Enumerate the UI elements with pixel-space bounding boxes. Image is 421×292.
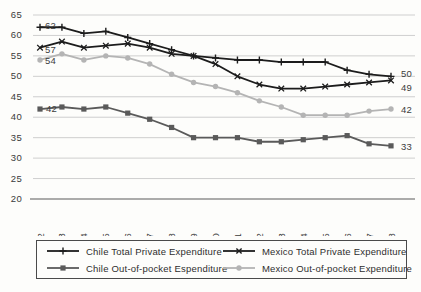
x-axis-tick-label: 2017 xyxy=(365,233,375,236)
square-marker-icon xyxy=(60,265,65,270)
x-axis-tick-label: 2016 xyxy=(343,233,353,236)
x-axis-tick-label: 2010 xyxy=(211,233,221,236)
x-axis-tick-label: 2012 xyxy=(255,233,265,236)
plus-marker-icon xyxy=(37,24,44,31)
x-axis-tick-label: 2004 xyxy=(79,233,89,236)
y-axis-tick-label: 20 xyxy=(11,193,22,204)
legend-label: Chile Total Private Expenditure xyxy=(86,246,222,257)
y-axis-tick-label: 50 xyxy=(11,70,22,81)
legend-item-mexico-oop: Mexico Out-of-pocket Expenditure xyxy=(221,261,412,276)
x-axis-tick-label: 2006 xyxy=(123,233,133,236)
legend-label: Mexico Total Private Expenditure xyxy=(262,246,407,257)
legend-label: Chile Out-of-pocket Espenditure xyxy=(86,263,227,274)
square-marker-icon xyxy=(279,139,284,144)
circle-marker-icon xyxy=(191,80,196,85)
legend-item-chile-total: Chile Total Private Expenditure xyxy=(45,244,221,259)
x-axis-tick-label: 2003 xyxy=(57,233,67,236)
x-axis-tick-label: 2008 xyxy=(167,233,177,236)
plus-marker-icon xyxy=(322,59,329,66)
circle-marker-icon xyxy=(322,112,327,117)
square-marker-icon xyxy=(125,111,130,116)
square-marker-icon xyxy=(37,106,42,111)
x-axis-tick-label: 2011 xyxy=(233,233,243,236)
square-marker-icon xyxy=(213,135,218,140)
legend-label: Mexico Out-of-pocket Expenditure xyxy=(262,263,412,274)
series-line xyxy=(40,27,391,76)
circle-marker-icon xyxy=(388,106,393,111)
y-axis-tick-label: 30 xyxy=(11,152,22,163)
y-axis-tick-label: 25 xyxy=(11,173,22,184)
circle-marker-icon xyxy=(213,84,218,89)
square-line-marker-icon xyxy=(45,263,81,273)
legend-item-chile-oop: Chile Out-of-pocket Espenditure xyxy=(45,261,221,276)
plus-marker-icon xyxy=(102,28,109,35)
y-axis-tick-label: 55 xyxy=(11,50,22,61)
x-axis-tick-label: 2018 xyxy=(387,233,397,236)
circle-marker-icon xyxy=(235,90,240,95)
x-axis-tick-label: 2015 xyxy=(321,233,331,236)
series-line xyxy=(40,42,391,89)
x-axis-tick-label: 2009 xyxy=(189,233,199,236)
plus-marker-icon xyxy=(234,56,241,63)
square-marker-icon xyxy=(345,133,350,138)
square-marker-icon xyxy=(191,135,196,140)
y-axis-tick-label: 35 xyxy=(11,132,22,143)
line-chart: 2025303540455055606520022003200420052006… xyxy=(0,0,421,292)
y-axis-tick-label: 60 xyxy=(11,29,22,40)
square-marker-icon xyxy=(388,143,393,148)
square-marker-icon xyxy=(147,117,152,122)
series-start-data-label: 42 xyxy=(46,103,57,114)
circle-marker-icon xyxy=(169,72,174,77)
x-axis-tick-label: 2005 xyxy=(101,233,111,236)
circle-marker-icon xyxy=(301,112,306,117)
series-end-data-label: 49 xyxy=(401,82,412,93)
square-marker-icon xyxy=(301,137,306,142)
plus-line-marker-icon xyxy=(45,246,81,256)
square-marker-icon xyxy=(257,139,262,144)
square-marker-icon xyxy=(103,104,108,109)
circle-marker-icon xyxy=(344,112,349,117)
plus-marker-icon xyxy=(344,67,351,74)
circle-marker-icon xyxy=(103,53,108,58)
x-line-marker-icon xyxy=(221,246,257,256)
plus-marker-icon xyxy=(58,24,65,31)
chart-legend: Chile Total Private Expenditure Mexico T… xyxy=(36,240,407,279)
circle-marker-icon xyxy=(366,108,371,113)
series-start-data-label: 62 xyxy=(45,20,56,31)
circle-marker-icon xyxy=(81,57,86,62)
square-marker-icon xyxy=(59,104,64,109)
plus-marker-icon xyxy=(256,56,263,63)
circle-marker-icon xyxy=(279,104,284,109)
y-axis-tick-label: 65 xyxy=(11,9,22,20)
series-end-data-label: 42 xyxy=(401,104,412,115)
series-start-data-label: 54 xyxy=(45,55,56,66)
series-end-data-label: 50 xyxy=(401,68,412,79)
square-marker-icon xyxy=(81,106,86,111)
circle-marker-icon xyxy=(59,51,64,56)
plus-marker-icon xyxy=(60,248,67,255)
circle-marker-icon xyxy=(125,55,130,60)
square-marker-icon xyxy=(366,141,371,146)
plus-marker-icon xyxy=(300,59,307,66)
series-start-data-label: 57 xyxy=(45,44,56,55)
plus-marker-icon xyxy=(278,59,285,66)
x-axis-tick-label: 2013 xyxy=(277,233,287,236)
y-axis-tick-label: 40 xyxy=(11,111,22,122)
square-marker-icon xyxy=(169,125,174,130)
y-axis-tick-label: 45 xyxy=(11,91,22,102)
x-axis-tick-label: 2002 xyxy=(36,233,46,236)
circle-marker-icon xyxy=(37,57,42,62)
square-marker-icon xyxy=(323,135,328,140)
series-end-data-label: 33 xyxy=(401,141,412,152)
x-axis-tick-label: 2007 xyxy=(145,233,155,236)
legend-item-mexico-total: Mexico Total Private Expenditure xyxy=(221,244,412,259)
x-axis-tick-label: 2014 xyxy=(299,233,309,236)
circle-marker-icon xyxy=(147,61,152,66)
circle-marker-icon xyxy=(257,98,262,103)
square-marker-icon xyxy=(235,135,240,140)
circle-line-marker-icon xyxy=(221,263,257,273)
chart-plot-area: 2025303540455055606520022003200420052006… xyxy=(0,0,421,236)
circle-marker-icon xyxy=(236,265,241,270)
